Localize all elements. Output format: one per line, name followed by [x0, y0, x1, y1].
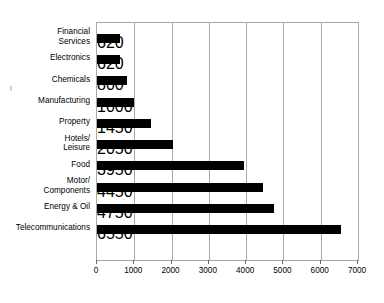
bar: 1000	[97, 98, 134, 107]
bar: 620	[97, 34, 120, 43]
y-axis-label: Electronics	[0, 53, 90, 62]
x-tick-label: 5000	[262, 266, 302, 276]
bar: 2050	[97, 140, 173, 149]
y-axis-label: Hotels/ Leisure	[0, 134, 90, 153]
y-axis-label: Energy & Oil	[0, 202, 90, 211]
bar: 3950	[97, 161, 244, 170]
x-tick-6000	[320, 260, 321, 264]
bar: 4450	[97, 183, 263, 192]
y-axis-label: Motor/ Components	[0, 176, 90, 195]
bar: 800	[97, 76, 127, 85]
x-tick-4000	[245, 260, 246, 264]
x-tick-label: 4000	[225, 266, 265, 276]
x-tick-label: 2000	[151, 266, 191, 276]
bar: 6550	[97, 225, 341, 234]
x-tick-1000	[133, 260, 134, 264]
x-tick-2000	[171, 260, 172, 264]
y-axis-label: Property	[0, 117, 90, 126]
y-axis-label: Telecommunications	[0, 223, 90, 232]
bar: 1450	[97, 119, 151, 128]
plot-area: 6206208001000145020503950445047506550	[96, 22, 359, 261]
y-axis-label: Financial Services	[0, 27, 90, 46]
x-tick-5000	[282, 260, 283, 264]
x-tick-0	[96, 260, 97, 264]
bar-chart: Financial ServicesElectronicsChemicalsMa…	[0, 0, 384, 303]
y-axis-label: Chemicals	[0, 75, 90, 84]
x-tick-7000	[357, 260, 358, 264]
x-axis-tick-labels: 01000200030004000500060007000	[0, 266, 384, 280]
x-tick-3000	[208, 260, 209, 264]
x-tick-label: 1000	[113, 266, 153, 276]
bar: 620	[97, 55, 120, 64]
y-axis-label: Manufacturing	[0, 96, 90, 105]
bar: 4750	[97, 204, 274, 213]
y-axis-label: Food	[0, 160, 90, 169]
x-axis-ticks	[96, 260, 358, 265]
y-axis-category-labels: Financial ServicesElectronicsChemicalsMa…	[0, 22, 93, 237]
x-tick-label: 7000	[337, 266, 377, 276]
x-tick-label: 3000	[188, 266, 228, 276]
x-tick-label: 0	[76, 266, 116, 276]
x-tick-label: 6000	[300, 266, 340, 276]
